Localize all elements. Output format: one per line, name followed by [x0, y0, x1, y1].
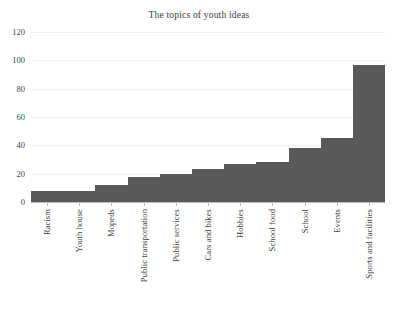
- x-axis-tick-mark: [240, 202, 241, 206]
- bar-slot: [224, 32, 256, 202]
- x-axis-label-slot: Public services: [160, 207, 192, 311]
- bar-slot: [192, 32, 224, 202]
- x-axis-tick-mark: [272, 202, 273, 206]
- bar: [289, 148, 321, 202]
- y-axis-tick-label: 100: [12, 55, 25, 65]
- x-axis-label-slot: Cars and bikes: [192, 207, 224, 311]
- bar-slot: [95, 32, 127, 202]
- y-axis-tick-label: 60: [17, 112, 26, 122]
- x-axis-tick: [224, 202, 256, 206]
- x-axis-tick-mark: [369, 202, 370, 206]
- bar: [63, 191, 95, 202]
- x-axis-tick-mark: [337, 202, 338, 206]
- y-axis-tick-label: 80: [17, 84, 26, 94]
- x-axis-label-slot: School food: [256, 207, 288, 311]
- x-axis-label-slot: Mopeds: [95, 207, 127, 311]
- bar-series: [31, 32, 385, 202]
- bar-slot: [321, 32, 353, 202]
- x-axis-category-label: Racism: [42, 209, 52, 235]
- chart-title: The topics of youth ideas: [0, 10, 398, 20]
- x-axis-tick-mark: [47, 202, 48, 206]
- x-axis-ticks: [31, 202, 385, 206]
- bar: [321, 138, 353, 202]
- x-axis-tick: [160, 202, 192, 206]
- bar: [192, 169, 224, 202]
- bar-slot: [256, 32, 288, 202]
- bar-slot: [160, 32, 192, 202]
- y-axis-tick-label: 0: [21, 197, 25, 207]
- x-axis-category-label: School food: [267, 209, 277, 251]
- bar: [160, 174, 192, 202]
- x-axis-tick: [128, 202, 160, 206]
- x-axis-category-label: Sports and facilities: [364, 209, 374, 279]
- x-axis-label-slot: Public transportation: [128, 207, 160, 311]
- x-axis-label-slot: Youth house: [63, 207, 95, 311]
- bar: [128, 177, 160, 203]
- x-axis-tick: [31, 202, 63, 206]
- y-axis-tick-label: 120: [12, 27, 25, 37]
- x-axis-tick: [321, 202, 353, 206]
- x-axis-category-label: School: [300, 209, 310, 233]
- x-axis-label-slot: Events: [321, 207, 353, 311]
- bar-slot: [289, 32, 321, 202]
- x-axis-category-label: Hobbies: [235, 209, 245, 238]
- x-axis-category-label: Public services: [171, 209, 181, 262]
- bar-slot: [31, 32, 63, 202]
- x-axis-tick: [192, 202, 224, 206]
- x-axis-tick-mark: [305, 202, 306, 206]
- x-axis-tick-mark: [176, 202, 177, 206]
- x-axis-label-slot: Sports and facilities: [353, 207, 385, 311]
- x-axis-tick: [95, 202, 127, 206]
- x-axis-tick: [63, 202, 95, 206]
- bar-slot: [128, 32, 160, 202]
- x-axis-label-slot: Racism: [31, 207, 63, 311]
- bar: [256, 162, 288, 202]
- x-axis-labels: RacismYouth houseMopedsPublic transporta…: [31, 207, 385, 311]
- bar-slot: [353, 32, 385, 202]
- x-axis-tick-mark: [79, 202, 80, 206]
- x-axis-category-label: Cars and bikes: [203, 209, 213, 260]
- y-axis-tick-label: 20: [17, 169, 26, 179]
- x-axis-category-label: Events: [332, 209, 342, 233]
- x-axis-tick: [256, 202, 288, 206]
- bar: [224, 164, 256, 202]
- plot-area: 020406080100120: [31, 32, 385, 202]
- x-axis-category-label: Youth house: [74, 209, 84, 252]
- x-axis-category-label: Mopeds: [106, 209, 116, 237]
- bar: [353, 65, 385, 202]
- x-axis-tick-mark: [144, 202, 145, 206]
- x-axis-tick: [289, 202, 321, 206]
- bar: [31, 191, 63, 202]
- x-axis-tick-mark: [111, 202, 112, 206]
- x-axis-label-slot: School: [289, 207, 321, 311]
- x-axis-tick: [353, 202, 385, 206]
- y-axis-tick-label: 40: [17, 140, 26, 150]
- bar-slot: [63, 32, 95, 202]
- bar-chart: The topics of youth ideas 02040608010012…: [0, 0, 398, 313]
- x-axis-category-label: Public transportation: [139, 209, 149, 282]
- bar: [95, 185, 127, 202]
- x-axis-label-slot: Hobbies: [224, 207, 256, 311]
- x-axis-tick-mark: [208, 202, 209, 206]
